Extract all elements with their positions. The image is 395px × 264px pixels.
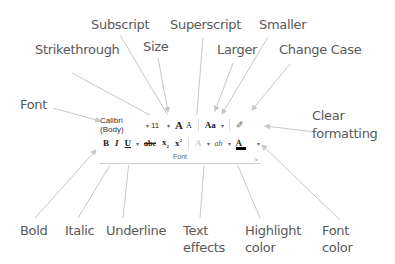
callout-font: Font — [20, 97, 47, 113]
callout-superscript: Superscript — [170, 17, 241, 33]
callout-bold: Bold — [20, 223, 48, 239]
chevron-down-icon[interactable]: ▾ — [167, 122, 170, 129]
callout-smaller: Smaller — [259, 17, 306, 33]
callout-font-color-line1: Font — [322, 223, 349, 239]
group-label: Font — [100, 153, 260, 160]
chevron-down-icon[interactable]: ▾ — [257, 140, 260, 147]
strikethrough-button[interactable]: abc — [144, 139, 156, 148]
italic-button[interactable]: I — [115, 138, 119, 148]
chevron-down-icon[interactable]: ▾ — [228, 140, 231, 147]
callout-text-effects-line1: Text — [183, 223, 208, 239]
separator — [229, 119, 230, 131]
font-row-2: B I U ▾ abc x2 x2 A ▾ ab ▾ A ▾ — [100, 135, 262, 151]
callout-size: Size — [143, 39, 169, 55]
underline-button[interactable]: U — [125, 138, 132, 148]
change-case-button[interactable]: Aa — [205, 120, 216, 130]
callout-highlight-color-line1: Highlight — [245, 223, 301, 239]
callout-underline: Underline — [106, 223, 166, 239]
chevron-down-icon[interactable]: ▾ — [221, 122, 224, 129]
superscript-button[interactable]: x2 — [175, 138, 182, 148]
callout-clear-formatting-line2: formatting — [312, 126, 378, 142]
dialog-launcher-icon[interactable]: ↘ — [253, 155, 258, 162]
callout-larger: Larger — [217, 42, 257, 58]
font-name-dropdown[interactable]: Calibri (Body) — [100, 116, 144, 134]
shrink-font-button[interactable]: A — [186, 121, 192, 130]
font-group-panel: Calibri (Body) ▾ 11 ▾ A A Aa ▾ ✐ B I U ▾… — [100, 115, 260, 165]
chevron-down-icon[interactable]: ▾ — [146, 122, 149, 129]
subscript-button[interactable]: x2 — [162, 137, 169, 149]
separator — [188, 137, 189, 149]
text-effects-button[interactable]: A — [195, 138, 202, 148]
font-size-dropdown[interactable]: 11 — [151, 121, 165, 130]
bold-button[interactable]: B — [103, 138, 109, 148]
callout-italic: Italic — [65, 223, 94, 239]
grow-font-button[interactable]: A — [175, 119, 183, 131]
highlight-color-button[interactable]: ab — [215, 139, 223, 148]
font-color-swatch — [236, 147, 246, 150]
callout-text-effects-line2: effects — [183, 240, 225, 256]
callout-strikethrough: Strikethrough — [35, 42, 120, 58]
chevron-down-icon[interactable]: ▾ — [136, 140, 139, 147]
callout-subscript: Subscript — [91, 17, 149, 33]
font-row-1: Calibri (Body) ▾ 11 ▾ A A Aa ▾ ✐ — [100, 117, 247, 133]
separator — [198, 119, 199, 131]
chevron-down-icon[interactable]: ▾ — [207, 140, 210, 147]
callout-change-case: Change Case — [279, 42, 361, 58]
group-divider — [100, 163, 260, 164]
clear-formatting-icon[interactable]: ✐ — [236, 120, 244, 130]
callout-highlight-color-line2: color — [245, 240, 276, 256]
callout-font-color-line2: color — [322, 240, 353, 256]
callout-clear-formatting-line1: Clear — [312, 108, 345, 124]
